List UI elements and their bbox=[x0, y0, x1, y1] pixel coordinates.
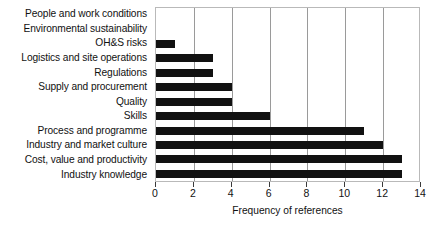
category-label: Quality bbox=[0, 94, 151, 109]
bar-slot bbox=[156, 152, 419, 166]
bar-chart: People and work conditionsEnvironmental … bbox=[0, 0, 440, 229]
bar-slot bbox=[156, 109, 419, 123]
bars-layer bbox=[156, 8, 419, 181]
x-tick-label: 12 bbox=[376, 188, 388, 199]
bar bbox=[156, 170, 402, 178]
bar bbox=[156, 112, 270, 120]
category-axis: People and work conditionsEnvironmental … bbox=[0, 7, 151, 182]
x-tick-label: 6 bbox=[266, 188, 272, 199]
x-axis-title: Frequency of references bbox=[155, 205, 420, 216]
x-tick-label: 8 bbox=[304, 188, 310, 199]
category-label: Regulations bbox=[0, 65, 151, 80]
bar bbox=[156, 69, 213, 77]
bar-slot bbox=[156, 123, 419, 137]
category-label: Skills bbox=[0, 109, 151, 124]
bar-slot bbox=[156, 51, 419, 65]
category-label: Process and programme bbox=[0, 124, 151, 139]
bar-slot bbox=[156, 80, 419, 94]
category-label: Cost, value and productivity bbox=[0, 153, 151, 168]
x-tick-label: 10 bbox=[338, 188, 350, 199]
category-label: Logistics and site operations bbox=[0, 51, 151, 66]
bar-slot bbox=[156, 167, 419, 181]
bar-slot bbox=[156, 138, 419, 152]
bar bbox=[156, 127, 364, 135]
bar bbox=[156, 54, 213, 62]
plot-area bbox=[155, 7, 420, 182]
bar bbox=[156, 141, 383, 149]
bar-slot bbox=[156, 95, 419, 109]
bar bbox=[156, 98, 232, 106]
bar-slot bbox=[156, 8, 419, 22]
x-tick-label: 14 bbox=[414, 188, 426, 199]
x-tick-label: 2 bbox=[190, 188, 196, 199]
x-tick-label: 0 bbox=[152, 188, 158, 199]
category-label: Environmental sustainability bbox=[0, 22, 151, 37]
bar-slot bbox=[156, 66, 419, 80]
category-label: Industry and market culture bbox=[0, 138, 151, 153]
category-label: People and work conditions bbox=[0, 7, 151, 22]
bar-slot bbox=[156, 22, 419, 36]
bar bbox=[156, 40, 175, 48]
bar bbox=[156, 83, 232, 91]
category-label: OH&S risks bbox=[0, 36, 151, 51]
category-label: Industry knowledge bbox=[0, 167, 151, 182]
x-tick-label: 4 bbox=[228, 188, 234, 199]
category-label: Supply and procurement bbox=[0, 80, 151, 95]
bar bbox=[156, 155, 402, 163]
x-axis-tick-labels: 02468101214 bbox=[155, 188, 420, 202]
bar-slot bbox=[156, 37, 419, 51]
